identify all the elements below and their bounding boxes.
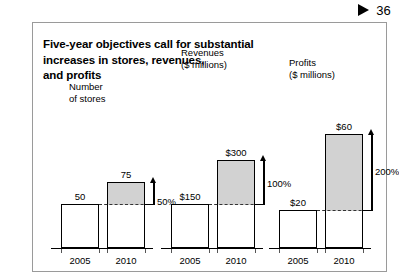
axis-tick [209, 249, 210, 253]
panel-label-revenues-line2: ($ millions) [181, 59, 227, 71]
bar-growth-fill [108, 183, 144, 205]
axis-baseline-revenues [161, 248, 263, 249]
chart-panel-stores: Number of stores 50 75 [43, 75, 161, 271]
play-triangle-icon [358, 4, 369, 16]
bar-profits-2010 [325, 134, 363, 248]
axis-tick [171, 249, 172, 253]
axis-baseline-stores [51, 248, 153, 249]
bar-profits-2005 [279, 210, 317, 248]
bar-value-stores-2010: 75 [107, 169, 145, 180]
chart-panel-revenues: Revenues ($ millions) $150 $300 [153, 43, 275, 271]
panel-label-revenues-line1: Revenues [181, 47, 224, 58]
chart-panel-profits: Profits ($ millions) $20 $60 [261, 21, 383, 271]
axis-tick [279, 249, 280, 253]
axis-tick [145, 249, 146, 253]
axis-tick [99, 249, 100, 253]
axis-tick [317, 249, 318, 253]
panel-label-stores-line1: Number [69, 81, 103, 92]
bar-value-revenues-2010: $300 [211, 147, 261, 158]
bar-growth-fill [326, 135, 362, 211]
page-marker: 36 [358, 2, 391, 18]
axis-tick [107, 249, 108, 253]
bar-value-stores-2005: 50 [61, 191, 99, 202]
axis-tick [325, 249, 326, 253]
bar-stores-2005 [61, 204, 99, 248]
bar-stores-2010 [107, 182, 145, 248]
growth-arrow-head-profits [368, 129, 374, 135]
slide-frame: Five-year objectives call for substantia… [32, 22, 387, 272]
growth-label-profits: 200% [375, 166, 399, 177]
panel-label-stores-line2: of stores [69, 93, 105, 105]
growth-arrow-shaft-profits [371, 133, 373, 211]
xlabel-stores-2010: 2010 [97, 255, 155, 266]
xlabel-revenues-2010: 2010 [207, 255, 265, 266]
xlabel-profits-2010: 2010 [315, 255, 373, 266]
axis-tick [217, 249, 218, 253]
axis-baseline-profits [269, 248, 371, 249]
bar-revenues-2005 [171, 204, 209, 248]
bar-growth-fill [218, 161, 254, 205]
bar-value-profits-2005: $20 [275, 197, 321, 208]
page-number: 36 [376, 3, 391, 18]
axis-tick [363, 249, 364, 253]
panel-label-profits-line1: Profits [289, 57, 316, 68]
panel-label-stores: Number of stores [69, 81, 105, 104]
axis-tick [61, 249, 62, 253]
panel-label-revenues: Revenues ($ millions) [181, 47, 227, 70]
bar-value-profits-2010: $60 [321, 121, 367, 132]
axis-tick [255, 249, 256, 253]
bar-value-revenues-2005: $150 [165, 191, 215, 202]
